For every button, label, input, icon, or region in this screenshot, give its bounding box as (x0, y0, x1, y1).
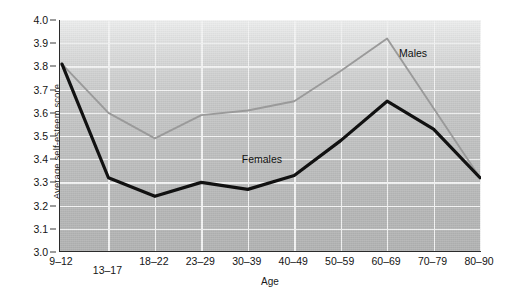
x-tick-label: 18–22 (139, 255, 168, 267)
x-tick-label: 60–69 (372, 255, 401, 267)
x-tick-label: 23–29 (186, 255, 215, 267)
x-axis-title: Age (59, 276, 481, 287)
x-tick-label: 50–59 (325, 255, 354, 267)
x-tick-label: 30–39 (232, 255, 261, 267)
chart-figure: Average self-esteem score 3.03.13.23.33.… (0, 0, 506, 300)
x-tick-label: 13–17 (93, 264, 122, 276)
x-tick-label: 70–79 (418, 255, 447, 267)
x-tick-label: 40–49 (279, 255, 308, 267)
x-tick-label: 80–90 (464, 255, 493, 267)
x-tick-label: 9–12 (49, 255, 72, 267)
x-axis-tick-labels: 9–1213–1718–2223–2930–3940–4950–5960–697… (0, 0, 506, 300)
